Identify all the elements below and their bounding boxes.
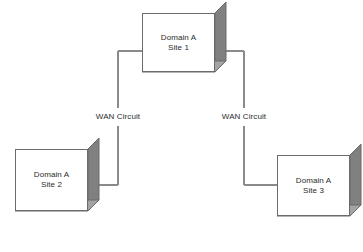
- site-1-face: [142, 13, 215, 72]
- site-2-face: [15, 149, 88, 211]
- node-site-3[interactable]: Domain A Site 3: [277, 155, 350, 216]
- site-3-face: [277, 155, 350, 216]
- network-diagram: Domain A Site 1 Domain A Site 2 Domain A…: [0, 0, 363, 252]
- wan-circuit-label-left: WAN Circuit: [93, 111, 143, 123]
- node-site-1[interactable]: Domain A Site 1: [142, 13, 215, 72]
- wan-circuit-label-right: WAN Circuit: [219, 111, 269, 123]
- node-site-2[interactable]: Domain A Site 2: [15, 149, 88, 211]
